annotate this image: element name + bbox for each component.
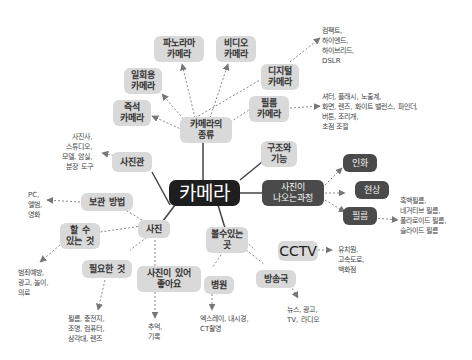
node-film: 필름	[343, 207, 377, 225]
node-cctv: CCTV	[278, 241, 318, 261]
node-can-do: 할 수 있는 것	[60, 223, 100, 249]
node-panorama-camera: 파노라마 카메라	[154, 36, 204, 62]
leaf-broadcaster: 뉴스, 광고, TV, 라디오	[287, 305, 319, 325]
node-storage-method: 보관 방법	[81, 193, 133, 211]
leaf-film-camera-parts: 셔터, 플래시, 노출계, 화면, 렌즈, 화이트 밸런스, 파인더, 버튼, …	[322, 92, 418, 132]
center-node-camera: 카메라	[169, 180, 240, 206]
leaf-storage-method: PC, 앨범, 영화	[28, 190, 42, 220]
node-disposable-camera: 일회용 카메라	[124, 68, 162, 94]
leaf-cctv-places: 유치원, 고속도로, 백화점	[338, 245, 364, 275]
node-hospital: 병원	[204, 276, 234, 294]
leaf-photo-studio: 사진사, 스튜디오, 모델, 암실, 분장 도구	[62, 132, 93, 172]
node-develop: 현상	[355, 181, 389, 199]
leaf-film-types: 흑백필름, 네거티브 필름, 폴라로이드 필름, 슬라이드 필름	[400, 196, 446, 236]
node-good-to-have-photo: 사진이 있어 좋아요	[137, 266, 201, 292]
node-must-see-places: 볼수있는 곳	[206, 227, 248, 253]
node-photo-process: 사진이 나오는과정	[262, 180, 324, 206]
node-broadcaster: 방송국	[256, 270, 296, 288]
leaf-digital-camera-types: 컴팩트, 하이엔드, 하이브리드, DSLR	[322, 26, 354, 66]
node-needed: 필요한 것	[82, 260, 132, 278]
leaf-hospital: 엑스레이, 내시경, CT촬영	[200, 314, 249, 334]
leaf-can-do: 범죄예방, 광고, 놀이, 의료	[18, 268, 49, 298]
node-instant-camera: 즉석 카메라	[113, 100, 151, 126]
node-photo: 사진	[138, 220, 170, 238]
node-video-camera: 비디오 카메라	[216, 36, 256, 62]
node-structure-function: 구조와 기능	[261, 141, 297, 167]
node-digital-camera: 디지털 카메라	[261, 64, 299, 90]
node-film-camera: 필름 카메라	[249, 96, 289, 122]
node-print: 인화	[343, 154, 377, 172]
leaf-needed: 필름, 충전지, 조명, 컴퓨터, 삼각대, 렌즈	[68, 314, 105, 344]
leaf-good-to-have: 추억, 기록	[148, 322, 162, 342]
node-photo-studio: 사진관	[112, 152, 152, 172]
node-camera-types: 카메라의 종류	[180, 117, 232, 143]
